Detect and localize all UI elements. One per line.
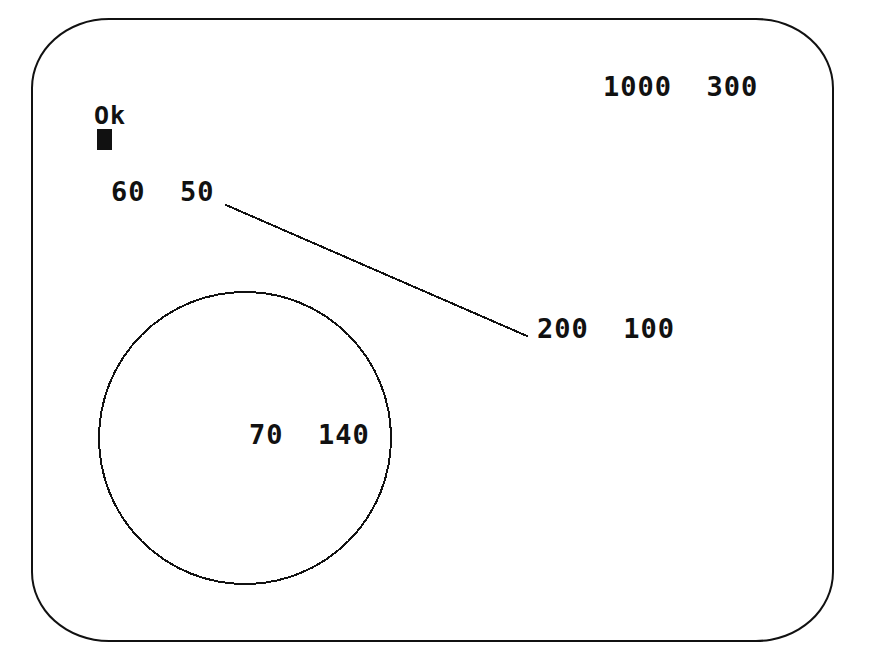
coord-label-circle-center: 70 140 bbox=[249, 421, 370, 448]
basic-prompt-ok: Ok bbox=[94, 103, 126, 128]
coord-label-line-start: 60 50 bbox=[111, 178, 215, 205]
crt-screenshot: Ok 1000 300 60 50 200 100 70 140 bbox=[0, 0, 873, 667]
coord-label-line-end: 200 100 bbox=[537, 315, 675, 342]
drawn-line bbox=[226, 205, 527, 336]
block-cursor bbox=[97, 129, 112, 150]
coord-label-topright: 1000 300 bbox=[603, 73, 758, 100]
